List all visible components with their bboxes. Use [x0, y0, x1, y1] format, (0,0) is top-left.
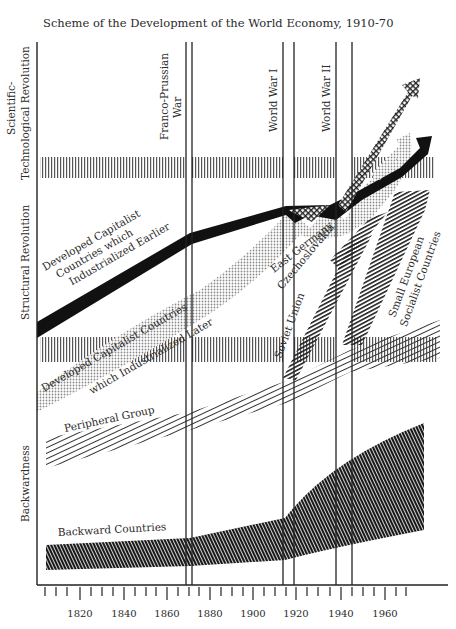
x-axis-labels: 1820 1840 1860 1880 1900 1920 1940 1960 [67, 608, 397, 619]
y-level-scientific: Scientific- Technological Revolution [5, 46, 31, 180]
label-early-capitalist: Developed Capitalist Countries which Ind… [40, 197, 172, 295]
y-level-backwardness: Backwardness [19, 445, 31, 522]
y-level-structural: Structural Revolution [19, 205, 31, 320]
ww2-label: World War II [320, 64, 332, 132]
svg-text:Technological Revolution: Technological Revolution [19, 46, 31, 180]
franco-prussian-label: Franco-Prussian War [158, 53, 183, 140]
svg-text:Franco-Prussian: Franco-Prussian [158, 53, 170, 140]
svg-text:1900: 1900 [240, 608, 265, 619]
label-backward-countries: Backward Countries [57, 520, 166, 538]
svg-text:1820: 1820 [67, 608, 92, 619]
svg-text:1880: 1880 [197, 608, 222, 619]
diagram-title: Scheme of the Development of the World E… [43, 16, 393, 30]
svg-text:1960: 1960 [372, 608, 397, 619]
svg-text:War: War [171, 96, 183, 118]
svg-text:1860: 1860 [154, 608, 179, 619]
svg-text:1940: 1940 [328, 608, 353, 619]
svg-text:1840: 1840 [111, 608, 136, 619]
svg-text:Scientific-: Scientific- [5, 81, 17, 135]
diagram-canvas: Scheme of the Development of the World E… [0, 0, 456, 629]
svg-text:1920: 1920 [283, 608, 308, 619]
x-axis-ticks [45, 587, 406, 600]
ww1-label: World War I [267, 69, 279, 132]
